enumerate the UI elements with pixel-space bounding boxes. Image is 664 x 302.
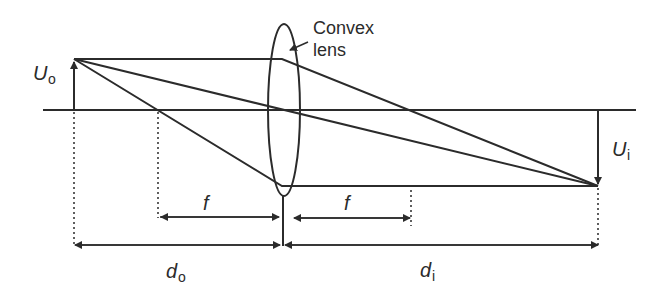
image-height-sub: i [627,147,630,163]
lens-label-line2: lens [313,40,346,60]
image-distance-sub: i [432,268,435,284]
object-distance-sub: o [178,269,186,285]
image-height-label: U [612,138,627,160]
focal-label-left: f [203,192,211,214]
lens-label-line1: Convex [313,18,374,38]
lens-pointer-arrow [290,42,308,50]
object-height-label: U [33,62,48,84]
focal-label-right: f [344,192,352,214]
center-ray [74,59,598,186]
image-distance-label: d [420,259,432,281]
lens-diagram: Convex lens U o U i f f d o d i [0,0,664,302]
object-height-sub: o [48,71,56,87]
object-distance-label: d [166,260,178,282]
